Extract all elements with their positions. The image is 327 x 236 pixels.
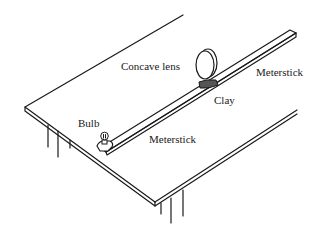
- optics-diagram: Concave lens Meterstick Clay Bulb Meters…: [0, 0, 327, 236]
- table: [25, 15, 297, 223]
- label-bulb: Bulb: [78, 117, 100, 129]
- meterstick: [100, 30, 296, 155]
- label-meterstick-left: Meterstick: [149, 133, 197, 145]
- label-clay: Clay: [214, 94, 235, 106]
- label-meterstick-right: Meterstick: [256, 66, 304, 78]
- label-concave-lens: Concave lens: [121, 60, 180, 72]
- concave-lens: [196, 49, 217, 79]
- bulb: [97, 132, 113, 151]
